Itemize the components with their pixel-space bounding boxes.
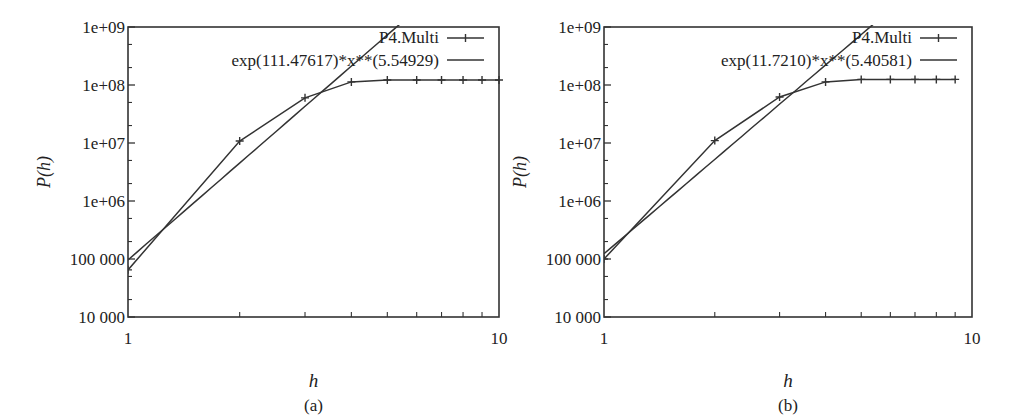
- fit-line: [604, 0, 972, 254]
- data-point-marker: [911, 75, 919, 83]
- data-point-marker: [459, 76, 467, 84]
- data-point-marker: [478, 76, 486, 84]
- data-point-marker: [951, 75, 959, 83]
- data-line: [604, 79, 955, 259]
- data-point-marker: [301, 94, 309, 102]
- x-tick-label: 10: [491, 329, 508, 348]
- data-point-marker: [932, 75, 940, 83]
- data-point-marker: [347, 78, 355, 86]
- y-tick-label: 1e+07: [558, 134, 601, 153]
- x-tick-label: 1: [600, 329, 609, 348]
- y-tick-label: 10 000: [78, 308, 125, 327]
- y-tick-label: 100 000: [70, 250, 125, 269]
- legend-label-data: P4.Multi: [379, 28, 439, 47]
- y-tick-label: 1e+08: [558, 76, 601, 95]
- data-point-marker: [857, 75, 865, 83]
- panel-caption: (b): [778, 396, 798, 415]
- y-tick-label: 100 000: [546, 250, 601, 269]
- series-group: [600, 0, 972, 263]
- panel-caption: (a): [304, 396, 323, 415]
- y-tick-label: 1e+06: [558, 192, 601, 211]
- y-tick-label: 1e+06: [82, 192, 125, 211]
- legend: P4.Multiexp(11.7210)*x**(5.40581): [721, 28, 957, 70]
- y-tick-label: 1e+08: [82, 76, 125, 95]
- y-tick-label: 1e+09: [558, 18, 601, 37]
- x-tick-label: 1: [124, 329, 133, 348]
- y-axis-label: P(h): [34, 156, 55, 189]
- y-axis: 10 000100 0001e+061e+071e+081e+09: [70, 18, 135, 327]
- x-tick-label: 10: [964, 329, 981, 348]
- series-group: [124, 0, 503, 274]
- data-point-marker: [822, 78, 830, 86]
- data-point-marker: [438, 76, 446, 84]
- data-point-marker: [413, 76, 421, 84]
- panel-a: 10 000100 0001e+061e+071e+081e+09110hP(h…: [34, 0, 508, 415]
- plot-frame: [128, 27, 499, 317]
- panel-b: 10 000100 0001e+061e+071e+081e+09110hP(h…: [510, 0, 981, 415]
- y-axis: 10 000100 0001e+061e+071e+081e+09: [546, 18, 611, 327]
- x-axis-label: h: [309, 370, 319, 391]
- plot-frame: [604, 27, 972, 317]
- data-line: [128, 80, 499, 270]
- y-tick-label: 1e+07: [82, 134, 125, 153]
- legend-label-fit: exp(111.47617)*x**(5.54929): [232, 51, 439, 70]
- chart-canvas: 10 000100 0001e+061e+071e+081e+09110hP(h…: [0, 0, 1015, 418]
- figure: 10 000100 0001e+061e+071e+081e+09110hP(h…: [0, 0, 1015, 418]
- legend: P4.Multiexp(111.47617)*x**(5.54929): [232, 28, 484, 70]
- fit-line: [128, 0, 499, 260]
- legend-label-data: P4.Multi: [852, 28, 912, 47]
- data-point-marker: [886, 75, 894, 83]
- y-tick-label: 10 000: [554, 308, 601, 327]
- y-axis-label: P(h): [510, 156, 531, 189]
- data-point-marker: [383, 76, 391, 84]
- x-axis-label: h: [783, 370, 793, 391]
- data-point-marker: [495, 76, 503, 84]
- data-point-marker: [776, 93, 784, 101]
- y-tick-label: 1e+09: [82, 18, 125, 37]
- legend-label-fit: exp(11.7210)*x**(5.40581): [721, 51, 912, 70]
